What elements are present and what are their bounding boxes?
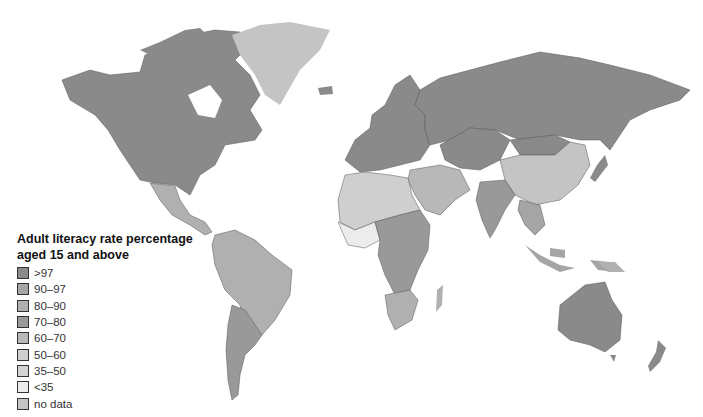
legend-item-lt35: <35 bbox=[17, 379, 193, 395]
region-europe bbox=[345, 75, 430, 172]
legend-swatch bbox=[17, 332, 29, 344]
map-legend: Adult literacy rate percentage aged 15 a… bbox=[17, 231, 193, 412]
legend-item-80-90: 80–90 bbox=[17, 298, 193, 314]
region-southeast-asia bbox=[518, 200, 545, 235]
legend-item-35-50: 35–50 bbox=[17, 363, 193, 379]
legend-item-70-80: 70–80 bbox=[17, 314, 193, 330]
legend-item-gt97: >97 bbox=[17, 265, 193, 281]
legend-swatch bbox=[17, 300, 29, 312]
legend-label: 60–70 bbox=[34, 332, 66, 344]
region-australia bbox=[558, 282, 622, 352]
legend-label: 80–90 bbox=[34, 300, 66, 312]
legend-label: 35–50 bbox=[34, 365, 66, 377]
region-iceland bbox=[318, 86, 333, 95]
region-japan bbox=[590, 155, 608, 182]
legend-swatch bbox=[17, 316, 29, 328]
legend-title-line2: aged 15 and above bbox=[17, 247, 193, 263]
legend-swatch bbox=[17, 349, 29, 361]
legend-swatch bbox=[17, 283, 29, 295]
legend-label: no data bbox=[34, 398, 72, 410]
region-central-africa bbox=[375, 210, 430, 295]
region-south-america-north bbox=[212, 230, 292, 335]
legend-label: >97 bbox=[34, 267, 54, 279]
legend-label: 90–97 bbox=[34, 283, 66, 295]
legend-item-60-70: 60–70 bbox=[17, 330, 193, 346]
region-indonesia bbox=[525, 245, 615, 272]
legend-swatch bbox=[17, 365, 29, 377]
legend-swatch bbox=[17, 381, 29, 393]
legend-label: 50–60 bbox=[34, 349, 66, 361]
region-india bbox=[476, 180, 515, 238]
legend-item-50-60: 50–60 bbox=[17, 346, 193, 362]
region-new-zealand bbox=[648, 340, 666, 372]
legend-swatch bbox=[17, 398, 29, 410]
region-madagascar bbox=[436, 285, 443, 312]
region-southern-africa bbox=[385, 290, 418, 330]
legend-item-no-data: no data bbox=[17, 395, 193, 411]
legend-title-line1: Adult literacy rate percentage bbox=[17, 231, 193, 247]
region-tasmania bbox=[610, 355, 616, 362]
region-mexico-central-america bbox=[150, 183, 212, 235]
legend-title: Adult literacy rate percentage aged 15 a… bbox=[17, 231, 193, 263]
legend-swatch bbox=[17, 267, 29, 279]
legend-label: 70–80 bbox=[34, 316, 66, 328]
legend-label: <35 bbox=[34, 381, 54, 393]
legend-item-90-97: 90–97 bbox=[17, 281, 193, 297]
